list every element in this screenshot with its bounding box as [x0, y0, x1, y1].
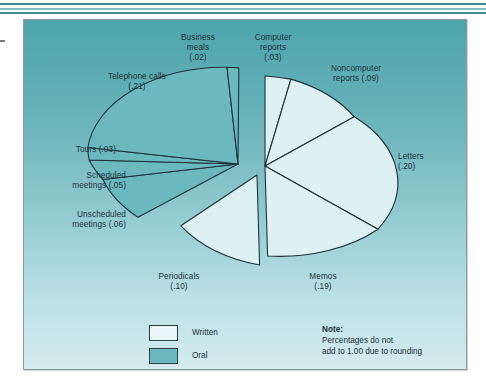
top-rule-1	[0, 3, 486, 5]
label-computer-reports: Computer reports (.03)	[240, 33, 306, 63]
legend-swatch-written	[149, 325, 178, 341]
label-memos: Memos (.19)	[292, 272, 354, 292]
label-periodicals: Periodicals (.10)	[142, 272, 216, 292]
figure-page: Business meals (.02) Computer reports (.…	[0, 0, 486, 389]
legend-label-oral: Oral	[192, 351, 207, 360]
top-rule-2	[0, 8, 486, 10]
label-letters: Letters (.20)	[398, 152, 460, 172]
left-margin-tick	[0, 40, 5, 42]
legend-item-oral[interactable]: Oral	[149, 346, 218, 365]
chart-panel: Business meals (.02) Computer reports (.…	[23, 19, 467, 370]
label-noncomputer-reports: Noncomputer reports (.09)	[312, 64, 400, 84]
note-line-2: add to 1.00 due to rounding	[322, 346, 422, 357]
label-scheduled-meetings: Scheduled meetings (.05)	[26, 171, 126, 191]
legend-item-written[interactable]: Written	[149, 323, 218, 342]
legend-label-written: Written	[192, 328, 218, 337]
label-unscheduled-meetings: Unscheduled meetings (.06)	[26, 210, 126, 230]
note-heading: Note:	[322, 324, 422, 335]
label-business-meals: Business meals (.02)	[167, 33, 229, 63]
label-tours: Tours (.03)	[26, 145, 116, 155]
label-telephone-calls: Telephone calls (.21)	[84, 72, 190, 92]
note-block: Note: Percentages do not add to 1.00 due…	[322, 324, 422, 357]
legend: Written Oral	[149, 323, 218, 369]
top-rule-3	[0, 12, 486, 14]
note-line-1: Percentages do not	[322, 335, 422, 346]
legend-swatch-oral	[149, 348, 178, 364]
